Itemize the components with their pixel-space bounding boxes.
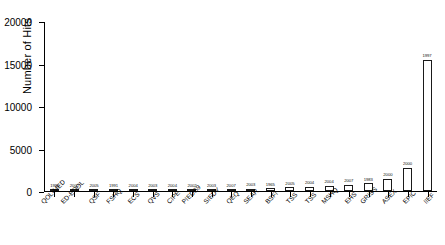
x-label-slot: TSS xyxy=(301,198,321,245)
bar-slot: 2004 xyxy=(163,22,183,191)
y-axis-tick-label: 10000 xyxy=(4,102,32,113)
x-label-slot: ASEX xyxy=(379,198,399,245)
bar-slot: 2007 xyxy=(221,22,241,191)
y-axis-tick: 5000 xyxy=(39,150,44,151)
bar-slot: 1996 xyxy=(45,22,65,191)
bar-slot: 2002 xyxy=(65,22,85,191)
y-axis-tick-label: 5000 xyxy=(10,144,32,155)
bar-slot: 2003 xyxy=(241,22,261,191)
x-label-slot: IIEF xyxy=(418,198,438,245)
bar-slot: 2000 xyxy=(398,22,418,191)
bar-slot: 2005 xyxy=(84,22,104,191)
bar-slot: 1965 xyxy=(261,22,281,191)
x-label-slot: PIEDS9 xyxy=(183,198,203,245)
bar-value-label: 1997 xyxy=(423,53,432,58)
bar xyxy=(403,168,412,191)
x-label-slot: QVS xyxy=(143,198,163,245)
x-label-slot: SEAR xyxy=(242,198,262,245)
x-label-slot: ED-EQOL xyxy=(65,198,85,245)
x-label-slot: EPIC xyxy=(399,198,419,245)
bar-slot: 2005 xyxy=(280,22,300,191)
bar-value-label: 2005 xyxy=(89,183,98,188)
x-axis-labels: QOL-MEDED-EQOLQSFFSHQECSQVSCIPEPIEDS9SIE… xyxy=(45,198,438,245)
bar-slot: 1983 xyxy=(359,22,379,191)
x-label-slot: QOL-MED xyxy=(45,198,65,245)
bar-slot: 2004 xyxy=(319,22,339,191)
bar-slot: 2007 xyxy=(339,22,359,191)
y-axis-tick: 10000 xyxy=(39,107,44,108)
y-axis-tick: 20000 xyxy=(39,22,44,23)
bars-container: 1996200220051991200420032004200220032007… xyxy=(45,22,437,191)
bar-value-label: 2004 xyxy=(168,183,177,188)
bar xyxy=(423,60,432,191)
y-axis-tick-label: 15000 xyxy=(4,59,32,70)
bar-chart-figure: Number of Hits 05000100001500020000 1996… xyxy=(0,0,445,245)
bar-slot: 1997 xyxy=(417,22,437,191)
x-label-slot: FSHQ xyxy=(104,198,124,245)
bar-slot: 2003 xyxy=(202,22,222,191)
bar-value-label: 2004 xyxy=(325,179,334,184)
bar-value-label: 2004 xyxy=(305,180,314,185)
plot-area: 05000100001500020000 1996200220051991200… xyxy=(44,22,437,192)
bar-slot: 1991 xyxy=(104,22,124,191)
x-label-slot: SIEDY xyxy=(202,198,222,245)
x-label-slot: BSFI xyxy=(261,198,281,245)
bar-value-label: 2003 xyxy=(148,183,157,188)
bar-slot: 2002 xyxy=(182,22,202,191)
x-label-slot: MSHQ xyxy=(320,198,340,245)
x-label-slot: EHS xyxy=(340,198,360,245)
bar-slot: 2004 xyxy=(123,22,143,191)
y-axis-tick: 0 xyxy=(39,192,44,193)
x-label-slot: ECS xyxy=(124,198,144,245)
bar-value-label: 2004 xyxy=(129,183,138,188)
x-label-slot: GRISS xyxy=(360,198,380,245)
x-label-slot: QEQ xyxy=(222,198,242,245)
bar-value-label: 2007 xyxy=(344,178,353,183)
bar-slot: 2004 xyxy=(300,22,320,191)
bar-value-label: 1983 xyxy=(364,177,373,182)
bar-value-label: 2005 xyxy=(285,181,294,186)
bar-value-label: 1965 xyxy=(266,182,275,187)
y-axis-tick-label: 0 xyxy=(26,187,32,198)
bar-slot: 2003 xyxy=(143,22,163,191)
y-axis-tick: 15000 xyxy=(39,65,44,66)
bar-slot: 2000 xyxy=(378,22,398,191)
x-label-slot: CIPE xyxy=(163,198,183,245)
bar-value-label: 2007 xyxy=(227,183,236,188)
bar-value-label: 2000 xyxy=(403,161,412,166)
x-label-slot: QSF xyxy=(84,198,104,245)
bar-value-label: 2000 xyxy=(383,172,392,177)
x-label-slot: TSS xyxy=(281,198,301,245)
y-axis-tick-label: 20000 xyxy=(4,17,32,28)
